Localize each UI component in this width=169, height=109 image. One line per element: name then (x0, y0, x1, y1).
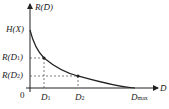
rd-curve (30, 30, 135, 88)
point-d2 (76, 74, 79, 77)
d2-label: D2 (75, 93, 85, 102)
d1-label: D1 (41, 93, 51, 102)
hx-label: H(X) (6, 25, 24, 34)
y-axis-label: R(D̄) (35, 3, 53, 12)
rd1-label: R(D1) (2, 53, 23, 62)
x-axis-label: D̄ (160, 84, 167, 93)
dmax-label: Dmax (131, 93, 148, 102)
rd2-label: R(D2) (2, 71, 23, 80)
origin-label: 0 (20, 91, 25, 100)
point-d1 (42, 56, 45, 59)
